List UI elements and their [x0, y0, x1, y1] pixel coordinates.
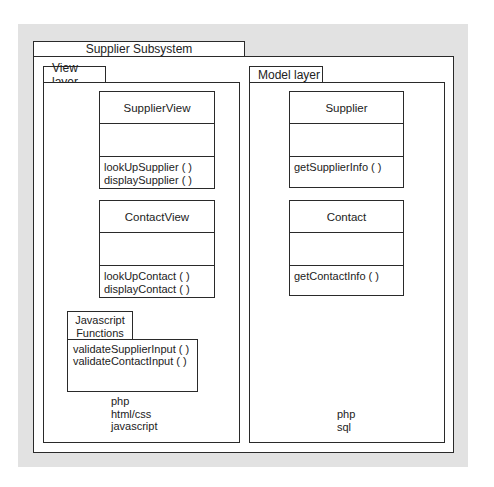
- model-layer-title: Model layer: [258, 68, 320, 82]
- class-attributes: [290, 124, 403, 157]
- class-name-text: Supplier: [325, 102, 367, 114]
- class-name: Contact: [290, 201, 403, 233]
- js-function: validateSupplierInput ( ): [73, 343, 197, 356]
- operation: displaySupplier ( ): [104, 174, 214, 187]
- technology: sql: [337, 421, 355, 434]
- class-operations: getSupplierInfo ( ): [290, 157, 403, 174]
- technology: php: [111, 395, 157, 408]
- class-name: SupplierView: [100, 92, 214, 124]
- js-functions-tab: Javascript Functions: [67, 311, 133, 340]
- class-operations: getContactInfo ( ): [290, 266, 403, 283]
- operation: getSupplierInfo ( ): [294, 161, 403, 174]
- operation: displayContact ( ): [104, 283, 214, 296]
- class-attributes: [290, 233, 403, 266]
- class-contactview: ContactView lookUpContact ( ) displayCon…: [99, 200, 215, 298]
- subsystem-title: Supplier Subsystem: [86, 42, 193, 56]
- class-operations: lookUpSupplier ( ) displaySupplier ( ): [100, 157, 214, 186]
- class-name-text: ContactView: [125, 211, 189, 223]
- class-supplierview: SupplierView lookUpSupplier ( ) displayS…: [99, 91, 215, 189]
- class-operations: lookUpContact ( ) displayContact ( ): [100, 266, 214, 295]
- operation: lookUpSupplier ( ): [104, 161, 214, 174]
- technology: html/css: [111, 408, 157, 421]
- class-supplier: Supplier getSupplierInfo ( ): [289, 91, 404, 188]
- view-layer-tab: View layer: [43, 66, 106, 83]
- class-name-text: Contact: [327, 211, 367, 223]
- class-name: Supplier: [290, 92, 403, 124]
- class-attributes: [100, 233, 214, 266]
- js-functions-body: validateSupplierInput ( ) validateContac…: [67, 339, 198, 392]
- technology: php: [337, 408, 355, 421]
- operation: getContactInfo ( ): [294, 270, 403, 283]
- model-layer-tab: Model layer: [249, 66, 323, 83]
- model-layer-technologies: php sql: [337, 408, 355, 433]
- technology: javascript: [111, 420, 157, 433]
- class-name: ContactView: [100, 201, 214, 233]
- js-functions-title-line1: Javascript: [68, 314, 132, 327]
- class-attributes: [100, 124, 214, 157]
- operation: lookUpContact ( ): [104, 270, 214, 283]
- class-contact: Contact getContactInfo ( ): [289, 200, 404, 296]
- class-name-text: SupplierView: [124, 102, 191, 114]
- js-function: validateContactInput ( ): [73, 355, 197, 368]
- view-layer-technologies: php html/css javascript: [111, 395, 157, 433]
- js-functions-title-line2: Functions: [68, 327, 132, 340]
